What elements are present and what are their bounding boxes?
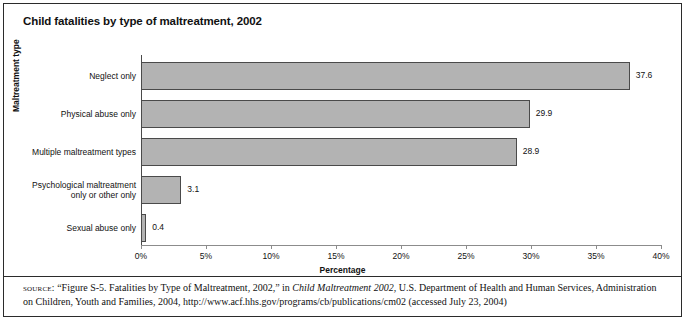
y-axis-tick-label: Sexual abuse only: [20, 223, 136, 234]
figure-container: Child fatalities by type of maltreatment…: [0, 0, 685, 321]
source-note: source: “Figure S-5. Fatalities by Type …: [23, 281, 663, 308]
x-axis-tick: [141, 245, 142, 249]
x-axis-tick: [596, 245, 597, 249]
x-axis-tick-label: 40%: [652, 251, 669, 261]
x-axis-tick: [531, 245, 532, 249]
y-axis-tick-label: Multiple maltreatment types: [20, 147, 136, 158]
bar: [141, 62, 630, 90]
x-axis-tick: [271, 245, 272, 249]
chart-plot: Maltreatment type Neglect onlyPhysical a…: [0, 0, 685, 321]
x-axis-tick-label: 30%: [522, 251, 539, 261]
x-axis-tick-label: 20%: [392, 251, 409, 261]
x-axis-title-label: Percentage: [320, 265, 366, 275]
y-axis-tick-labels: Neglect onlyPhysical abuse onlyMultiple …: [20, 55, 136, 245]
x-axis-tick: [206, 245, 207, 249]
bar-value-label: 29.9: [536, 108, 553, 118]
bar: [141, 100, 530, 128]
x-axis-tick-label: 35%: [587, 251, 604, 261]
bar: [141, 214, 146, 242]
bar-value-label: 37.6: [636, 70, 653, 80]
x-axis-tick-label: 0%: [135, 251, 147, 261]
x-axis-tick: [466, 245, 467, 249]
x-axis-title: Percentage: [0, 265, 685, 275]
y-axis-tick-label: Physical abuse only: [20, 109, 136, 120]
source-note-publication: Child Maltreatment 2002: [292, 282, 393, 293]
x-axis-tick-label: 5%: [200, 251, 212, 261]
x-axis-tick: [661, 245, 662, 249]
bar-value-label: 28.9: [523, 146, 540, 156]
bar-value-label: 3.1: [187, 184, 199, 194]
plot-area: 0%5%10%15%20%25%30%35%40%37.629.928.93.1…: [141, 55, 661, 245]
bar: [141, 138, 517, 166]
x-axis-tick-label: 10%: [262, 251, 279, 261]
x-axis-tick: [401, 245, 402, 249]
y-axis-tick-label: Psychological maltreatment only or other…: [20, 180, 136, 201]
y-axis-tick-label: Neglect only: [20, 71, 136, 82]
source-divider: [4, 276, 681, 277]
bar: [141, 176, 181, 204]
x-axis-tick: [336, 245, 337, 249]
source-note-part1: “Figure S-5. Fatalities by Type of Maltr…: [55, 282, 293, 293]
bar-value-label: 0.4: [152, 222, 164, 232]
x-axis-tick-label: 25%: [457, 251, 474, 261]
source-note-label: source:: [23, 283, 55, 293]
x-axis-tick-label: 15%: [327, 251, 344, 261]
